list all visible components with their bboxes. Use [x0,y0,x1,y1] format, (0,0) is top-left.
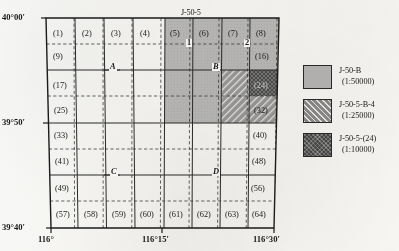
cell-24: (24) [254,81,268,90]
cell-16: (16) [255,52,269,61]
legend-scale-j505b4: (1:25000) [339,110,375,121]
legend-swatch-solid-icon [303,65,332,89]
cell-7: (7) [228,29,238,38]
legend-label-j50524: J-50-5-(24) [339,133,376,144]
cell-49: (49) [55,184,69,193]
cell-63: (63) [225,210,239,219]
marker-point-1: 1 [186,39,192,47]
marker-point-A: A [109,63,117,71]
lat-label-mid: 39°50′ [2,117,25,127]
cell-1: (1) [53,29,63,38]
cell-40: (40) [253,131,267,140]
cell-9: (9) [53,52,63,61]
cell-17: (17) [53,81,67,90]
cell-32: (32) [254,106,268,115]
cell-61: (61) [169,210,183,219]
cell-48: (48) [252,157,266,166]
lon-label-right: 116°30′ [253,234,280,244]
cell-4: (4) [140,29,150,38]
legend-item-j50b: J-50-B (1:50000) [303,64,376,89]
lat-label-top: 40°00′ [2,12,25,22]
top-sheet-label: J-50-5 [181,8,201,17]
lon-label-mid: 116°15′ [142,234,169,244]
cell-62: (62) [197,210,211,219]
cell-8: (8) [256,29,266,38]
lat-label-bottom: 39°40′ [2,222,25,232]
legend-scale-j50524: (1:10000) [339,144,376,155]
cell-57: (57) [56,210,70,219]
cell-56: (56) [251,184,265,193]
legend-item-j50524: J-50-5-(24) (1:10000) [303,132,376,157]
legend-label-j50b: J-50-B [339,65,374,76]
legend-item-j505b4: J-50-5-B-4 (1:25000) [303,98,376,123]
cell-25: (25) [54,106,68,115]
cell-6: (6) [199,29,209,38]
legend-label-j505b4: J-50-5-B-4 [339,99,375,110]
cell-2: (2) [82,29,92,38]
cell-3: (3) [111,29,121,38]
cell-41: (41) [55,157,69,166]
map-legend: J-50-B (1:50000) J-50-5-B-4 (1:25000) J-… [303,64,376,166]
cell-64: (64) [252,210,266,219]
cell-60: (60) [140,210,154,219]
cell-58: (58) [84,210,98,219]
legend-scale-j50b: (1:50000) [339,76,374,87]
legend-swatch-crosshatch-icon [303,133,332,157]
legend-swatch-hatch-icon [303,99,332,123]
lon-label-left: 116° [38,234,54,244]
marker-point-2: 2 [244,39,250,47]
cell-33: (33) [54,131,68,140]
cell-5: (5) [170,29,180,38]
marker-point-D: D [212,168,220,176]
marker-point-C: C [110,168,118,176]
marker-point-B: B [212,63,220,71]
cell-59: (59) [112,210,126,219]
